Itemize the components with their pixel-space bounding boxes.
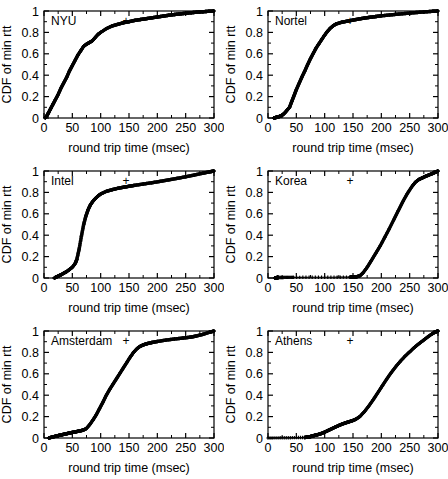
panel-series-label: NYU bbox=[51, 14, 76, 28]
y-tick-label: 0.4 bbox=[22, 229, 39, 243]
panel-series-label: Athens bbox=[275, 334, 312, 348]
y-tick-label: 1 bbox=[256, 5, 263, 19]
legend-plus-marker: + bbox=[346, 14, 353, 28]
x-tick-label: 250 bbox=[175, 281, 196, 295]
y-tick-label: 1 bbox=[256, 165, 263, 179]
x-tick-label: 150 bbox=[343, 441, 364, 455]
y-tick-label: 0.4 bbox=[246, 389, 263, 403]
x-tick-label: 200 bbox=[147, 121, 168, 135]
x-tick-label: 300 bbox=[428, 281, 448, 295]
y-tick-label: 0.2 bbox=[22, 250, 39, 264]
x-tick-label: 250 bbox=[175, 441, 196, 455]
y-tick-label: 0.6 bbox=[22, 207, 39, 221]
x-tick-label: 300 bbox=[428, 441, 448, 455]
y-tick-label: 0 bbox=[32, 112, 39, 126]
cdf-panel-nyu: 05010015020025030000.20.40.60.81NYU+roun… bbox=[0, 0, 224, 160]
y-tick-label: 0.2 bbox=[246, 90, 263, 104]
x-tick-label: 300 bbox=[428, 121, 448, 135]
y-tick-label: 0.8 bbox=[22, 26, 39, 40]
x-axis-label: round trip time (msec) bbox=[292, 461, 414, 475]
panel-series-label: Amsterdam bbox=[51, 334, 112, 348]
x-tick-label: 150 bbox=[343, 121, 364, 135]
cdf-panel-amsterdam: 05010015020025030000.20.40.60.81Amsterda… bbox=[0, 320, 224, 479]
x-tick-label: 50 bbox=[289, 121, 303, 135]
y-axis-label: CDF of min rtt bbox=[0, 345, 14, 423]
x-axis-label: round trip time (msec) bbox=[68, 301, 190, 315]
y-tick-label: 0.2 bbox=[246, 250, 263, 264]
y-tick-label: 0.2 bbox=[246, 410, 263, 424]
y-tick-label: 0.6 bbox=[22, 367, 39, 381]
x-axis-label: round trip time (msec) bbox=[292, 141, 414, 155]
y-tick-label: 0.8 bbox=[22, 186, 39, 200]
y-tick-label: 0.6 bbox=[22, 47, 39, 61]
x-tick-label: 100 bbox=[90, 441, 111, 455]
y-tick-label: 0.4 bbox=[22, 389, 39, 403]
legend-plus-marker: + bbox=[346, 334, 353, 348]
y-tick-label: 1 bbox=[32, 5, 39, 19]
x-tick-label: 50 bbox=[65, 121, 79, 135]
series-intel bbox=[53, 169, 216, 279]
panel-series-label: Intel bbox=[51, 174, 74, 188]
x-tick-label: 200 bbox=[147, 441, 168, 455]
legend-plus-marker: + bbox=[122, 334, 129, 348]
y-tick-label: 1 bbox=[32, 165, 39, 179]
y-axis-label: CDF of min rtt bbox=[224, 185, 238, 263]
x-tick-label: 0 bbox=[265, 281, 272, 295]
y-tick-label: 0 bbox=[256, 112, 263, 126]
y-tick-label: 0.8 bbox=[22, 346, 39, 360]
x-tick-label: 200 bbox=[371, 281, 392, 295]
x-tick-label: 200 bbox=[371, 441, 392, 455]
y-tick-label: 0.2 bbox=[22, 90, 39, 104]
figure-panel-grid: 05010015020025030000.20.40.60.81NYU+roun… bbox=[0, 0, 448, 479]
cdf-panel-intel: 05010015020025030000.20.40.60.81Intel+ro… bbox=[0, 160, 224, 320]
x-tick-label: 250 bbox=[175, 121, 196, 135]
y-tick-label: 0.4 bbox=[22, 69, 39, 83]
y-tick-label: 0.8 bbox=[246, 186, 263, 200]
x-tick-label: 200 bbox=[147, 281, 168, 295]
y-tick-label: 0.6 bbox=[246, 367, 263, 381]
panel-series-label: Korea bbox=[275, 174, 307, 188]
x-tick-label: 250 bbox=[399, 121, 420, 135]
y-axis-label: CDF of min rtt bbox=[224, 345, 238, 423]
x-tick-label: 150 bbox=[343, 281, 364, 295]
cdf-panel-athens: 05010015020025030000.20.40.60.81Athens+r… bbox=[224, 320, 448, 479]
x-tick-label: 100 bbox=[314, 441, 335, 455]
x-tick-label: 150 bbox=[119, 121, 140, 135]
x-tick-label: 100 bbox=[314, 121, 335, 135]
x-tick-label: 300 bbox=[204, 281, 224, 295]
y-axis-label: CDF of min rtt bbox=[0, 185, 14, 263]
y-tick-label: 0.6 bbox=[246, 47, 263, 61]
x-tick-label: 150 bbox=[119, 281, 140, 295]
x-tick-label: 300 bbox=[204, 441, 224, 455]
y-tick-label: 0 bbox=[32, 432, 39, 446]
x-tick-label: 50 bbox=[65, 281, 79, 295]
y-tick-label: 0 bbox=[256, 432, 263, 446]
y-tick-label: 1 bbox=[32, 325, 39, 339]
x-tick-label: 50 bbox=[289, 441, 303, 455]
y-axis-label: CDF of min rtt bbox=[224, 25, 238, 103]
x-tick-label: 300 bbox=[204, 121, 224, 135]
y-tick-label: 0.2 bbox=[22, 410, 39, 424]
x-tick-label: 150 bbox=[119, 441, 140, 455]
y-axis-label: CDF of min rtt bbox=[0, 25, 14, 103]
x-tick-label: 0 bbox=[41, 281, 48, 295]
x-tick-label: 0 bbox=[265, 441, 272, 455]
x-axis-label: round trip time (msec) bbox=[68, 461, 190, 475]
y-tick-label: 0.8 bbox=[246, 26, 263, 40]
y-tick-label: 0.4 bbox=[246, 69, 263, 83]
x-tick-label: 100 bbox=[90, 121, 111, 135]
x-tick-label: 100 bbox=[314, 281, 335, 295]
x-tick-label: 0 bbox=[41, 121, 48, 135]
y-tick-label: 1 bbox=[256, 325, 263, 339]
y-tick-label: 0.4 bbox=[246, 229, 263, 243]
y-tick-label: 0 bbox=[32, 272, 39, 286]
x-axis-label: round trip time (msec) bbox=[292, 301, 414, 315]
x-tick-label: 0 bbox=[265, 121, 272, 135]
y-tick-label: 0.6 bbox=[246, 207, 263, 221]
x-tick-label: 50 bbox=[289, 281, 303, 295]
legend-plus-marker: + bbox=[122, 14, 129, 28]
x-tick-label: 0 bbox=[41, 441, 48, 455]
cdf-panel-korea: 05010015020025030000.20.40.60.81Korea+ro… bbox=[224, 160, 448, 320]
y-tick-label: 0 bbox=[256, 272, 263, 286]
legend-plus-marker: + bbox=[122, 174, 129, 188]
